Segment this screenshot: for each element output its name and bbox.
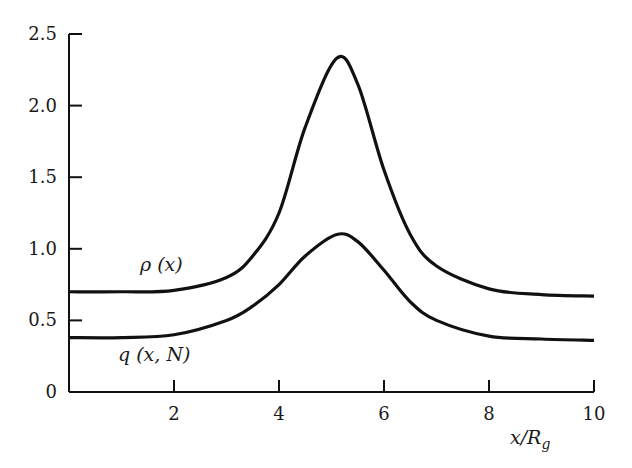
x-axis-title-subscript: g <box>541 436 550 452</box>
q-curve-label: q (x, N) <box>118 343 190 365</box>
x-axis-title: x/Rg <box>510 426 550 452</box>
y-tick-label: 0 <box>46 381 57 402</box>
y-tick-label: 2.0 <box>28 95 57 116</box>
y-tick-label: 2.5 <box>28 23 57 44</box>
ticks: 00.51.01.52.02.5246810 <box>28 23 605 424</box>
chart: 00.51.01.52.02.5246810 ρ (x) q (x, N) x/… <box>0 0 632 468</box>
x-tick-label: 4 <box>273 403 284 424</box>
y-tick-label: 1.5 <box>28 166 57 187</box>
x-tick-label: 10 <box>583 403 606 424</box>
x-tick-label: 8 <box>483 403 494 424</box>
curves <box>69 56 594 340</box>
q-curve <box>69 234 594 341</box>
x-tick-label: 2 <box>168 403 179 424</box>
x-tick-label: 6 <box>378 403 389 424</box>
rho-curve-label: ρ (x) <box>139 253 183 275</box>
x-axis-title-main: x/R <box>510 426 541 448</box>
y-tick-label: 1.0 <box>28 238 57 259</box>
y-tick-label: 0.5 <box>28 309 57 330</box>
